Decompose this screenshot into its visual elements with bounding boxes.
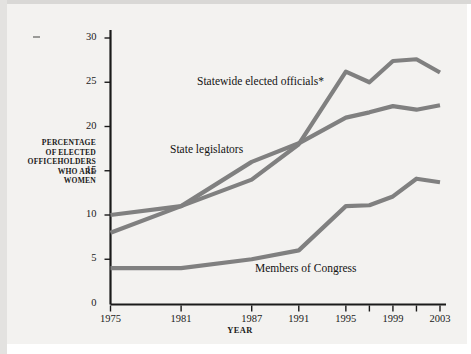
- series-label-statewide-elected-officials: Statewide elected officials*: [197, 75, 324, 87]
- series-label-members-of-congress: Members of Congress: [255, 262, 357, 274]
- y-tick-label-15: 15: [65, 164, 97, 175]
- y-axis-title-line-1: OF ELECTED: [18, 148, 96, 158]
- page-root: PERCENTAGEOF ELECTEDOFFICEHOLDERSWHO ARE…: [0, 0, 471, 354]
- x-axis-title: YEAR: [190, 326, 290, 335]
- y-tick-label-0: 0: [65, 297, 97, 308]
- y-axis-title-line-0: PERCENTAGE: [18, 138, 96, 148]
- y-axis-title: PERCENTAGEOF ELECTEDOFFICEHOLDERSWHO ARE…: [18, 138, 96, 186]
- y-tick-label-30: 30: [65, 31, 97, 42]
- x-tick-label-1975: 1975: [86, 313, 136, 324]
- x-tick-label-2003: 2003: [415, 313, 465, 324]
- page-corner-mark: [33, 36, 40, 38]
- y-tick-label-5: 5: [65, 252, 97, 263]
- line-chart: PERCENTAGEOF ELECTEDOFFICEHOLDERSWHO ARE…: [0, 0, 471, 354]
- y-tick-label-10: 10: [65, 208, 97, 219]
- x-tick-label-1981: 1981: [156, 313, 206, 324]
- series-label-state-legislators: State legislators: [170, 143, 243, 155]
- y-tick-label-25: 25: [65, 75, 97, 86]
- y-axis-title-line-4: WOMEN: [18, 176, 96, 186]
- series-line-2: [111, 179, 441, 268]
- x-tick-label-1991: 1991: [274, 313, 324, 324]
- y-tick-label-20: 20: [65, 120, 97, 131]
- x-tick-label-1995: 1995: [321, 313, 371, 324]
- x-tick-label-1999: 1999: [368, 313, 418, 324]
- x-tick-label-1987: 1987: [227, 313, 277, 324]
